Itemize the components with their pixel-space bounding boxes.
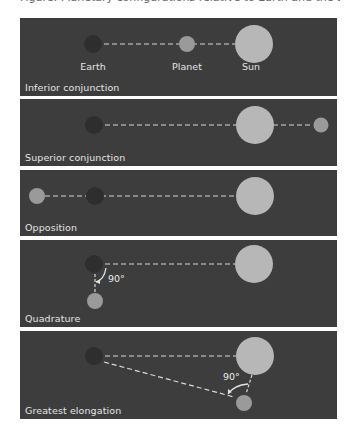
- figure-caption-cutoff: Figure: Planetary configurations relativ…: [20, 0, 340, 4]
- panel-title: Superior conjunction: [25, 152, 125, 163]
- sun-icon: [235, 25, 273, 63]
- earth-icon: [85, 347, 103, 365]
- planet-icon: [29, 188, 45, 204]
- panel-quadrature: 90° Quadrature: [20, 240, 337, 327]
- panel-title: Inferior conjunction: [25, 82, 119, 93]
- earth-label: Earth: [80, 61, 105, 72]
- sun-icon: [236, 106, 274, 144]
- panel-opposition: Opposition: [20, 170, 337, 236]
- earth-icon: [84, 35, 102, 53]
- angle-label: 90°: [223, 371, 240, 382]
- planet-icon: [236, 395, 252, 411]
- panel-title: Greatest elongation: [25, 405, 121, 416]
- sun-icon: [236, 337, 274, 375]
- planet-label: Planet: [172, 61, 202, 72]
- panel-inferior-conjunction: Earth Planet Sun Inferior conjunction: [20, 18, 337, 96]
- earth-icon: [85, 255, 103, 273]
- earth-icon: [86, 187, 104, 205]
- planet-icon: [87, 293, 103, 309]
- sun-icon: [236, 177, 274, 215]
- panel-title: Quadrature: [25, 313, 80, 324]
- planet-icon: [179, 36, 195, 52]
- panel-greatest-elongation: 90° Greatest elongation: [20, 331, 337, 419]
- planet-icon: [314, 118, 329, 133]
- line-of-sight-planet: [104, 362, 234, 397]
- panel-title: Opposition: [25, 222, 77, 233]
- sun-label: Sun: [242, 61, 260, 72]
- sun-icon: [235, 245, 273, 283]
- earth-icon: [85, 116, 103, 134]
- panel-superior-conjunction: Superior conjunction: [20, 99, 337, 166]
- angle-label: 90°: [108, 273, 125, 284]
